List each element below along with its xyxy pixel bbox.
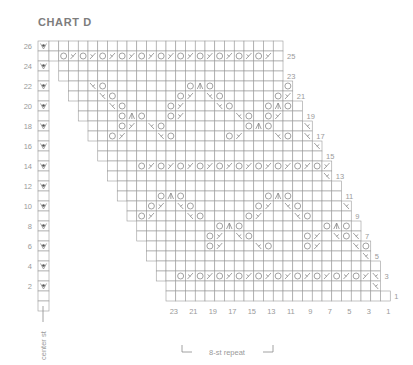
stitch-cell [117, 51, 127, 61]
stitch-cell [78, 81, 88, 91]
chart-row [166, 281, 381, 291]
stitch-cell [69, 41, 79, 51]
row-label: 5 [375, 252, 379, 261]
stitch-cell [264, 281, 274, 291]
center-cell [38, 251, 49, 261]
stitch-cell [225, 241, 235, 251]
stitch-cell [303, 141, 313, 151]
row-label: 3 [385, 272, 389, 281]
stitch-cell [215, 281, 225, 291]
stitch-cell [225, 291, 235, 301]
stitch-cell [186, 81, 196, 91]
stitch-cell [293, 111, 303, 121]
stitch-cell [293, 271, 303, 281]
stitch-cell [234, 141, 244, 151]
stitch-cell [137, 61, 147, 71]
stitch-cell [166, 291, 176, 301]
stitch-cell [176, 141, 186, 151]
chart-row [88, 121, 312, 131]
stitch-cell [205, 171, 215, 181]
stitch-cell [283, 111, 293, 121]
stitch-cell [147, 231, 157, 241]
stitch-cell [283, 231, 293, 241]
stitch-cell [166, 261, 176, 271]
stitch-cell [254, 71, 264, 81]
stitch-cell [195, 251, 205, 261]
stitch-cell [137, 111, 147, 121]
stitch-cell [59, 61, 69, 71]
stitch-cell [244, 71, 254, 81]
stitch-cell [117, 81, 127, 91]
chart-row [127, 201, 351, 211]
stitch-cell [322, 281, 332, 291]
stitch-cell [273, 291, 283, 301]
stitch-cell [195, 131, 205, 141]
stitch-cell [283, 131, 293, 141]
stitch-cell [264, 81, 274, 91]
stitch-cell [176, 161, 186, 171]
stitch-cell [303, 251, 313, 261]
stitch-cell [195, 51, 205, 61]
stitch-cell [156, 191, 166, 201]
stitch-cell [254, 191, 264, 201]
stitch-cell [264, 111, 274, 121]
stitch-cell [108, 71, 118, 81]
stitch-cell [322, 241, 332, 251]
stitch-cell [176, 231, 186, 241]
stitch-cell [234, 191, 244, 201]
stitch-cell [137, 161, 147, 171]
stitch-cell [98, 51, 108, 61]
column-label: 15 [248, 307, 256, 316]
stitch-cell [186, 121, 196, 131]
stitch-cell [264, 61, 274, 71]
stitch-cell [205, 61, 215, 71]
row-label: 23 [287, 72, 295, 81]
chart-row [49, 41, 283, 51]
stitch-cell [254, 81, 264, 91]
stitch-cell [137, 81, 147, 91]
stitch-cell [78, 51, 88, 61]
stitch-cell [78, 111, 88, 121]
stitch-cell [108, 61, 118, 71]
stitch-cell [234, 221, 244, 231]
stitch-cell [98, 101, 108, 111]
stitch-cell [88, 111, 98, 121]
stitch-cell [254, 261, 264, 271]
row-label: 2 [28, 282, 32, 291]
stitch-cell [244, 61, 254, 71]
stitch-cell [322, 291, 332, 301]
stitch-cell [88, 71, 98, 81]
stitch-cell [234, 171, 244, 181]
stitch-cell [244, 281, 254, 291]
stitch-cell [254, 101, 264, 111]
stitch-cell [293, 161, 303, 171]
stitch-cell [166, 71, 176, 81]
stitch-cell [351, 251, 361, 261]
stitch-cell [225, 251, 235, 261]
stitch-cell [176, 291, 186, 301]
stitch-cell [244, 151, 254, 161]
stitch-cell [254, 271, 264, 281]
stitch-cell [195, 141, 205, 151]
stitch-cell [293, 281, 303, 291]
repeat-bracket: 8-st repeat [182, 345, 273, 357]
stitch-cell [244, 41, 254, 51]
stitch-cell [264, 191, 274, 201]
stitch-cell [264, 231, 274, 241]
stitch-cell [283, 221, 293, 231]
stitch-cell [215, 161, 225, 171]
stitch-cell [273, 271, 283, 281]
stitch-cell [186, 241, 196, 251]
stitch-cell [303, 241, 313, 251]
stitch-cell [186, 281, 196, 291]
stitch-cell [137, 181, 147, 191]
stitch-cell [117, 61, 127, 71]
stitch-cell [137, 151, 147, 161]
stitch-cell [156, 71, 166, 81]
stitch-cell [361, 291, 371, 301]
stitch-cell [342, 261, 352, 271]
stitch-cell [195, 271, 205, 281]
stitch-cell [234, 51, 244, 61]
row-label: 13 [336, 172, 344, 181]
stitch-cell [195, 211, 205, 221]
